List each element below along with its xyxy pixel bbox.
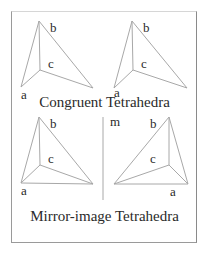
vertex-label-c: c bbox=[150, 151, 156, 166]
tetrahedra-diagram: b c a b c a Congruent Tetrahedra b c a m bbox=[0, 0, 209, 254]
vertex-label-c: c bbox=[48, 56, 54, 71]
vertex-label-c: c bbox=[48, 151, 54, 166]
caption-mirror-image: Mirror-image Tetrahedra bbox=[30, 208, 179, 224]
vertex-label-c: c bbox=[141, 56, 147, 71]
tetrahedron-bottom-left: b c a bbox=[21, 116, 93, 198]
vertex-label-b: b bbox=[143, 20, 150, 35]
vertex-label-b: b bbox=[150, 116, 157, 131]
tetrahedron-top-left: b c a bbox=[21, 20, 93, 102]
vertex-label-a: a bbox=[21, 183, 27, 198]
vertex-label-b: b bbox=[50, 116, 57, 131]
vertex-label-b: b bbox=[50, 20, 57, 35]
tetrahedron-bottom-right: b c a bbox=[114, 116, 188, 199]
mirror-plane: m bbox=[103, 114, 120, 200]
mirror-label: m bbox=[110, 114, 120, 129]
tetrahedron-top-right: b c a bbox=[114, 20, 187, 100]
caption-congruent: Congruent Tetrahedra bbox=[39, 94, 170, 110]
vertex-label-a: a bbox=[21, 87, 27, 102]
vertex-label-a: a bbox=[170, 184, 176, 199]
